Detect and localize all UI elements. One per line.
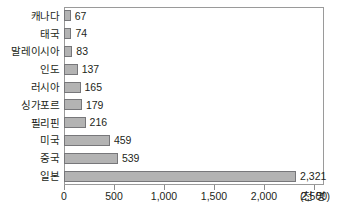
bar-row: 말레이시아83 [64,43,324,61]
category-label: 중국 [40,153,60,164]
value-label: 2,321 [300,171,326,182]
bar-row: 태국74 [64,25,324,43]
x-axis-unit-label: (천 명) [300,191,330,202]
x-axis-tick-label: 500 [105,191,123,202]
x-axis-ticks [64,185,324,190]
x-axis-tick-label: 1,500 [201,191,227,202]
bar [64,117,86,128]
bar-row: 미국459 [64,132,324,150]
value-label: 74 [75,28,87,39]
bar-row: 싱가포르179 [64,96,324,114]
category-label: 싱가포르 [21,100,60,111]
bar [64,64,78,75]
bar [64,28,71,39]
bar-row: 인도137 [64,60,324,78]
category-label: 미국 [40,135,60,146]
bar-row: 필리핀216 [64,114,324,132]
bar-row: 중국539 [64,149,324,167]
category-label: 태국 [40,28,60,39]
category-label: 말레이시아 [11,46,60,57]
x-axis-tick-label: 2,000 [251,191,277,202]
category-label: 필리핀 [31,117,60,128]
value-label: 83 [76,46,88,57]
bar [64,46,72,57]
bar [64,99,82,110]
x-axis-tick-labels: 05001,0001,5002,0002,500 [64,191,324,205]
bar-chart: 캐나다67태국74말레이시아83인도137러시아165싱가포르179필리핀216… [0,0,344,217]
value-label: 137 [82,64,100,75]
category-label: 일본 [40,171,60,182]
category-label: 러시아 [31,82,60,93]
value-label: 459 [114,135,132,146]
x-axis-tick-label: 1,000 [151,191,177,202]
bar-row: 일본2,321 [64,167,324,185]
value-label: 216 [90,117,108,128]
bar-row: 캐나다67 [64,7,324,25]
value-label: 165 [85,82,103,93]
bar [64,10,71,21]
x-axis-tick-label: 0 [61,191,67,202]
bar-rows: 캐나다67태국74말레이시아83인도137러시아165싱가포르179필리핀216… [64,7,324,185]
category-label: 인도 [40,64,60,75]
bar [64,171,296,182]
bar [64,82,81,93]
category-label: 캐나다 [31,11,60,22]
value-label: 539 [122,153,140,164]
bar-row: 러시아165 [64,78,324,96]
bar [64,153,118,164]
value-label: 67 [75,11,87,22]
bar [64,135,110,146]
value-label: 179 [86,100,104,111]
